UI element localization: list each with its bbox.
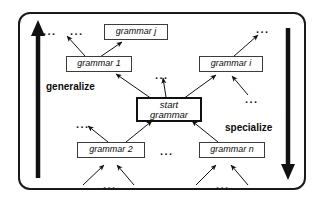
ellipsis-top-left-b: ... [70,26,84,37]
node-grammar-j[interactable]: grammar j [104,24,168,40]
node-grammar-n[interactable]: grammar n [199,142,265,158]
grammar-search-space-figure: grammar j grammar 1 grammar i start gram… [0,0,324,203]
node-grammar-i[interactable]: grammar i [199,56,263,72]
label-specialize: specialize [225,122,272,133]
ellipsis-bottom-left: ... [103,180,117,191]
node-grammar-2[interactable]: grammar 2 [77,142,145,158]
node-grammar-1[interactable]: grammar 1 [66,56,132,72]
node-start-grammar[interactable]: start grammar [136,97,202,122]
ellipsis-top-right: ... [256,24,270,35]
ellipsis-bottom-center: ... [160,146,174,157]
ellipsis-mid-left: ... [76,119,90,130]
ellipsis-bottom-right: ... [216,180,230,191]
ellipsis-top-left-a: ... [43,26,57,37]
label-generalize: generalize [46,81,95,92]
ellipsis-mid-center: ... [155,70,169,81]
ellipsis-mid-right: ... [245,94,259,105]
